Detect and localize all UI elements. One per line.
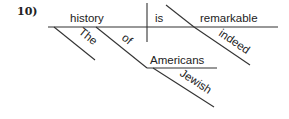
- word-verb: is: [155, 12, 164, 24]
- word-adjective: Jewish: [178, 67, 214, 96]
- word-adverb: indeed: [217, 27, 252, 56]
- word-prep-object: Americans: [150, 54, 205, 66]
- sentence-diagram: history is remarkable Americans The of J…: [0, 0, 289, 119]
- complement-divider: [166, 5, 194, 27]
- preposition-line-of: [96, 27, 147, 68]
- word-preposition: of: [120, 31, 136, 47]
- word-article: The: [77, 25, 100, 47]
- word-complement: remarkable: [200, 12, 258, 24]
- word-subject: history: [70, 12, 104, 24]
